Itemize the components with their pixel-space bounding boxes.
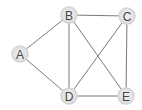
node-label: A [16,48,24,62]
graph-diagram: ABCDE [0,0,142,110]
node-b: B [61,7,77,23]
nodes-layer: ABCDE [12,7,135,104]
node-label: C [123,10,132,24]
node-a: A [12,46,28,62]
edge-a-b [20,15,69,54]
node-e: E [118,88,134,104]
edge-c-e [126,16,127,96]
edge-a-d [20,54,69,96]
node-c: C [119,8,135,24]
node-label: D [65,90,74,104]
node-label: B [65,9,73,23]
edges-layer [20,15,127,96]
node-d: D [61,88,77,104]
node-label: E [122,90,130,104]
